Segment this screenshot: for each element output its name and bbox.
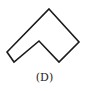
option-d-shape — [0, 0, 89, 70]
option-label: (D) — [0, 71, 89, 84]
chevron-shape-outline — [7, 9, 79, 62]
